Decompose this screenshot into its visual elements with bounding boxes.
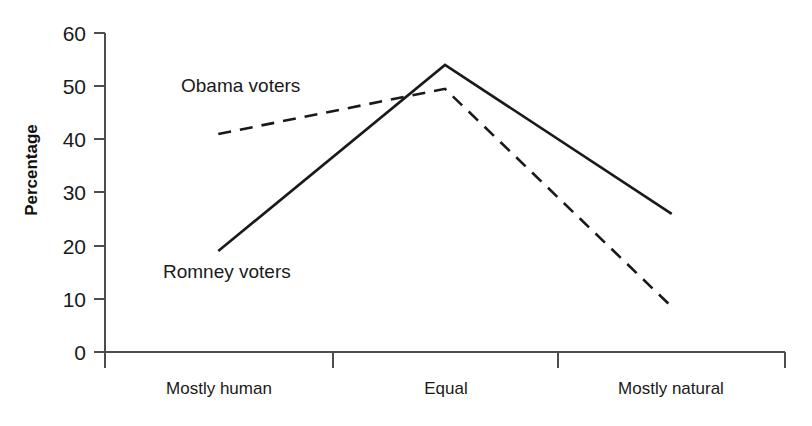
y-tick-label-20: 20 [42,236,86,257]
y-axis-ticks [94,33,105,352]
series-label-obama-voters: Obama voters [181,76,300,95]
y-axis-title: Percentage [22,110,42,230]
plot-area [0,0,812,426]
x-tick-label-mostly-natural: Mostly natural [591,380,751,397]
y-tick-label-0: 0 [42,342,86,363]
y-tick-label-40: 40 [42,129,86,150]
line-chart: 60 50 40 30 20 10 0 Percentage Mostly hu… [0,0,812,426]
x-axis-ticks [105,352,785,368]
series-label-romney-voters: Romney voters [163,262,291,281]
x-tick-label-equal: Equal [366,380,526,397]
y-tick-label-50: 50 [42,76,86,97]
y-tick-label-60: 60 [42,23,86,44]
y-tick-label-30: 30 [42,182,86,203]
x-tick-label-mostly-human: Mostly human [139,380,299,397]
y-tick-label-10: 10 [42,289,86,310]
